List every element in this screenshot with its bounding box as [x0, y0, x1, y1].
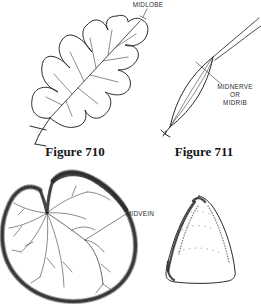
- midnerve-leader-line: [196, 62, 221, 84]
- lanceolate-leaf-base-hook: [161, 127, 170, 137]
- cordate-leaf-midvein: [47, 213, 103, 284]
- midvein-leader-line: [85, 214, 126, 240]
- cordate-leaf-figure: MIDVEIN: [2, 172, 154, 301]
- figure-711-caption: Figure 711: [175, 144, 234, 159]
- cordate-leaf-stipple-outer-band: [2, 172, 135, 301]
- cordate-leaf-vein-network: [9, 186, 110, 293]
- oak-leaf-midrib: [50, 21, 140, 118]
- midnerve-label-line3: MIDRIB: [223, 99, 247, 106]
- botanical-plate-page: MIDLOBE Figure 710 MIDNERVE OR MIDRIB Fi…: [0, 0, 261, 304]
- oak-leaf-figure: MIDLOBE Figure 710: [30, 1, 163, 159]
- lanceolate-leaf-blade-outline: [170, 57, 213, 127]
- midlobe-leader-line: [140, 9, 147, 19]
- midnerve-label-line1: MIDNERVE: [217, 83, 253, 90]
- lanceolate-leaf-midrib-bundle: [170, 58, 213, 127]
- midnerve-label-line2: OR: [230, 91, 240, 98]
- midlobe-label: MIDLOBE: [133, 1, 164, 8]
- oak-leaf-petiole: [30, 118, 50, 146]
- figure-710-caption: Figure 710: [45, 144, 104, 159]
- oak-leaf-secondary-veins: [46, 30, 136, 116]
- lanceolate-leaf-drip-tip: [213, 18, 261, 60]
- midvein-label: MIDVEIN: [126, 210, 155, 217]
- deltoid-leaf-figure: [166, 196, 235, 283]
- deltoid-leaf-stipple-left-edge: [168, 202, 195, 272]
- lanceolate-leaf-figure: MIDNERVE OR MIDRIB Figure 711: [161, 18, 261, 159]
- botanical-plate-canvas: MIDLOBE Figure 710 MIDNERVE OR MIDRIB Fi…: [0, 0, 261, 304]
- oak-leaf-outline: [32, 15, 148, 127]
- deltoid-leaf-stipple-corner: [168, 262, 174, 280]
